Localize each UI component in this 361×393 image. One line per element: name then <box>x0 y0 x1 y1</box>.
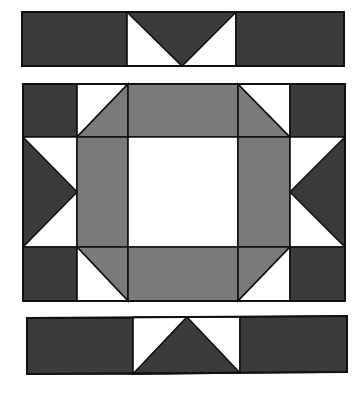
top-strip-right-dark-rect <box>236 12 344 66</box>
quilt-block-diagram <box>0 0 361 393</box>
bottom-strip-left-dark-rect <box>27 318 133 374</box>
main-right-center-gray-rect <box>238 137 290 247</box>
main-corner-top-left-dark <box>23 84 77 137</box>
bottom-strip-right-dark-rect <box>240 316 347 373</box>
main-corner-bottom-right-dark <box>290 247 345 301</box>
main-corner-top-right-dark <box>290 84 345 137</box>
main-bottom-center-gray-rect <box>128 247 238 301</box>
main-top-center-gray-rect <box>128 84 238 137</box>
main-corner-bottom-left-dark <box>23 247 77 301</box>
top-strip-left-dark-rect <box>22 12 127 66</box>
main-left-center-gray-rect <box>77 137 128 247</box>
main-center-white-square <box>128 137 238 247</box>
